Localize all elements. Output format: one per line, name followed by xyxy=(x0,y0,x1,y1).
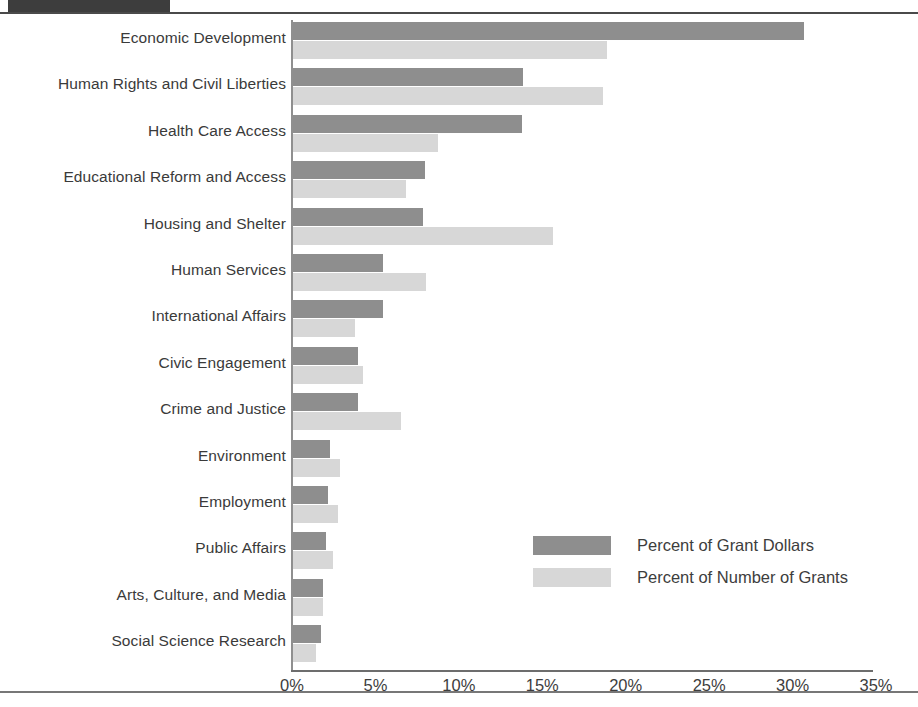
bar-number-of-grants xyxy=(293,273,426,291)
chart-category-row: Health Care Access xyxy=(0,115,918,152)
bar-group xyxy=(293,300,383,337)
page-bottom-rule xyxy=(0,691,918,693)
bar-group xyxy=(293,579,323,616)
chart-category-row: International Affairs xyxy=(0,300,918,337)
chart-category-row: Crime and Justice xyxy=(0,393,918,430)
category-axis-label: Human Services xyxy=(0,261,286,279)
category-axis-line xyxy=(291,670,873,672)
bar-group xyxy=(293,440,340,477)
category-axis-label: Public Affairs xyxy=(0,539,286,557)
bar-grant-dollars xyxy=(293,208,423,226)
bar-grant-dollars xyxy=(293,440,330,458)
category-axis-label: International Affairs xyxy=(0,307,286,325)
category-axis-label: Civic Engagement xyxy=(0,354,286,372)
bar-number-of-grants xyxy=(293,505,338,523)
bar-group xyxy=(293,68,603,105)
bar-grant-dollars xyxy=(293,625,321,643)
chart-legend: Percent of Grant Dollars Percent of Numb… xyxy=(533,529,863,593)
bar-grant-dollars xyxy=(293,393,358,411)
chart-category-row: Educational Reform and Access xyxy=(0,161,918,198)
bar-group xyxy=(293,625,321,662)
chart-category-row: Human Services xyxy=(0,254,918,291)
grouped-bar-chart: Economic DevelopmentHuman Rights and Civ… xyxy=(0,16,918,691)
category-axis-label: Housing and Shelter xyxy=(0,215,286,233)
bar-group xyxy=(293,393,401,430)
chart-category-row: Civic Engagement xyxy=(0,347,918,384)
bar-group xyxy=(293,22,804,59)
bar-group xyxy=(293,347,363,384)
bar-group xyxy=(293,161,425,198)
legend-swatch-number-of-grants xyxy=(533,568,611,587)
chart-category-row: Housing and Shelter xyxy=(0,208,918,245)
bar-number-of-grants xyxy=(293,319,355,337)
bar-grant-dollars xyxy=(293,486,328,504)
bar-number-of-grants xyxy=(293,412,401,430)
bar-group xyxy=(293,115,522,152)
category-axis-label: Crime and Justice xyxy=(0,400,286,418)
category-axis-label: Arts, Culture, and Media xyxy=(0,586,286,604)
page-top-rule xyxy=(0,12,918,14)
bar-group xyxy=(293,532,333,569)
bar-number-of-grants xyxy=(293,644,316,662)
bar-group xyxy=(293,254,426,291)
bar-grant-dollars xyxy=(293,68,523,86)
bar-grant-dollars xyxy=(293,347,358,365)
legend-label-number-of-grants: Percent of Number of Grants xyxy=(637,568,848,587)
bar-number-of-grants xyxy=(293,459,340,477)
bar-number-of-grants xyxy=(293,551,333,569)
bar-grant-dollars xyxy=(293,115,522,133)
bar-grant-dollars xyxy=(293,300,383,318)
chart-category-row: Human Rights and Civil Liberties xyxy=(0,68,918,105)
category-axis-label: Environment xyxy=(0,447,286,465)
bar-number-of-grants xyxy=(293,41,607,59)
bar-number-of-grants xyxy=(293,87,603,105)
bar-group xyxy=(293,208,553,245)
bar-grant-dollars xyxy=(293,22,804,40)
legend-label-grant-dollars: Percent of Grant Dollars xyxy=(637,536,814,555)
legend-item-number-of-grants: Percent of Number of Grants xyxy=(533,561,863,593)
bar-number-of-grants xyxy=(293,366,363,384)
category-axis-label: Employment xyxy=(0,493,286,511)
bar-grant-dollars xyxy=(293,254,383,272)
category-axis-label: Health Care Access xyxy=(0,122,286,140)
bar-grant-dollars xyxy=(293,579,323,597)
category-axis-label: Educational Reform and Access xyxy=(0,168,286,186)
bar-number-of-grants xyxy=(293,598,323,616)
category-axis-label: Human Rights and Civil Liberties xyxy=(0,75,286,93)
chart-category-row: Employment xyxy=(0,486,918,523)
bar-number-of-grants xyxy=(293,180,406,198)
bar-grant-dollars xyxy=(293,532,326,550)
bar-group xyxy=(293,486,338,523)
legend-item-grant-dollars: Percent of Grant Dollars xyxy=(533,529,863,561)
category-axis-label: Economic Development xyxy=(0,29,286,47)
chart-category-row: Environment xyxy=(0,440,918,477)
bar-number-of-grants xyxy=(293,227,553,245)
category-axis-label: Social Science Research xyxy=(0,632,286,650)
bar-grant-dollars xyxy=(293,161,425,179)
legend-swatch-grant-dollars xyxy=(533,536,611,555)
chart-category-row: Economic Development xyxy=(0,22,918,59)
chart-category-row: Social Science Research xyxy=(0,625,918,662)
bar-number-of-grants xyxy=(293,134,438,152)
